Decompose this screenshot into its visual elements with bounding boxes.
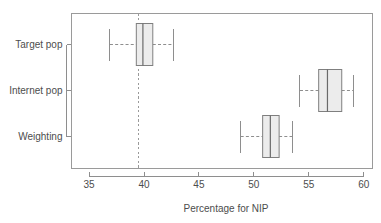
boxplot-internet-pop xyxy=(300,70,354,112)
y-tick-label-weighting: Weighting xyxy=(18,131,62,142)
x-tick-label: 60 xyxy=(358,179,370,190)
boxplot-target-pop xyxy=(110,24,174,66)
x-tick-label: 35 xyxy=(84,179,96,190)
box-series-group xyxy=(110,24,354,158)
boxplot-weighting xyxy=(241,116,293,158)
x-tick-label: 55 xyxy=(303,179,315,190)
y-tick-label-target-pop: Target pop xyxy=(15,39,63,50)
x-axis: 354045505560 xyxy=(84,172,370,190)
x-tick-label: 40 xyxy=(138,179,150,190)
x-tick-label: 45 xyxy=(193,179,205,190)
y-tick-label-internet-pop: Internet pop xyxy=(9,85,63,96)
boxplot-canvas: 354045505560 Target popInternet popWeigh… xyxy=(0,0,381,223)
y-axis: Target popInternet popWeighting xyxy=(9,39,71,142)
x-axis-title: Percentage for NIP xyxy=(183,203,268,214)
box-iqr xyxy=(319,70,342,112)
box-iqr xyxy=(136,24,152,66)
x-tick-label: 50 xyxy=(248,179,260,190)
boxplot-figure: 354045505560 Target popInternet popWeigh… xyxy=(0,0,381,223)
